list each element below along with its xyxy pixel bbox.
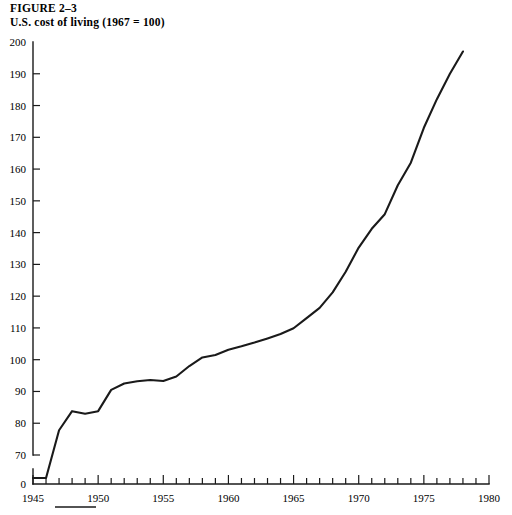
y-tick-label: 170: [10, 131, 27, 143]
y-tick-label: 100: [10, 354, 27, 366]
y-tick-label: 90: [15, 385, 27, 397]
chart-plot-area: 7080901001101201301401501601701801902000…: [0, 0, 512, 515]
x-tick-label: 1980: [478, 492, 501, 504]
y-tick-label: 160: [10, 163, 27, 175]
line-chart-svg: 7080901001101201301401501601701801902000…: [0, 0, 512, 515]
x-tick-label: 1975: [413, 492, 436, 504]
series-line-cost-of-living: [33, 52, 463, 478]
x-tick-label: 1955: [152, 492, 175, 504]
x-tick-label: 1965: [283, 492, 306, 504]
y-tick-label: 200: [10, 36, 27, 48]
x-axis-ticks: [33, 475, 489, 484]
y-tick-label: 120: [10, 290, 27, 302]
x-axis-tick-labels: 19451950195519601965197019751980: [22, 492, 501, 504]
y-tick-label: 150: [10, 195, 27, 207]
x-tick-label: 1970: [348, 492, 371, 504]
y-axis-tick-labels: 7080901001101201301401501601701801902000: [10, 36, 27, 490]
y-axis-group: 7080901001101201301401501601701801902000: [10, 36, 41, 490]
y-tick-label: 190: [10, 68, 27, 80]
x-axis-group: 19451950195519601965197019751980: [22, 475, 501, 504]
y-tick-label-zero: 0: [21, 478, 27, 490]
y-tick-label: 70: [15, 449, 27, 461]
figure-cost-of-living: FIGURE 2–3 U.S. cost of living (1967 = 1…: [0, 0, 512, 515]
y-tick-label: 180: [10, 100, 27, 112]
y-tick-label: 80: [15, 417, 27, 429]
x-tick-label: 1945: [22, 492, 45, 504]
x-tick-label: 1960: [217, 492, 240, 504]
y-tick-label: 130: [10, 258, 27, 270]
y-tick-label: 110: [10, 322, 27, 334]
y-axis-ticks: [33, 74, 40, 455]
data-series-group: [33, 52, 463, 478]
y-tick-label: 140: [10, 227, 27, 239]
x-tick-label: 1950: [87, 492, 110, 504]
